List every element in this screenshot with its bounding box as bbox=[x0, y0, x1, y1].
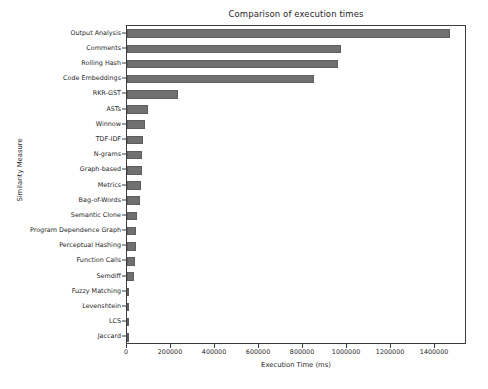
bar bbox=[127, 272, 134, 281]
y-tick-mark bbox=[122, 230, 126, 231]
bar bbox=[127, 60, 338, 69]
bar-row bbox=[127, 45, 465, 54]
y-tick-label: Rolling Hash bbox=[0, 60, 121, 66]
y-tick-label: Output Analysis bbox=[0, 29, 121, 35]
bar bbox=[127, 29, 450, 38]
y-tick-mark bbox=[122, 336, 126, 337]
bar bbox=[127, 75, 314, 84]
y-tick-label: Comments bbox=[0, 45, 121, 51]
y-tick-mark bbox=[122, 78, 126, 79]
bar-row bbox=[127, 105, 465, 114]
y-tick-mark bbox=[122, 154, 126, 155]
x-tick-label: 1200000 bbox=[376, 349, 404, 355]
y-tick-mark bbox=[122, 62, 126, 63]
bar bbox=[127, 318, 129, 327]
x-axis-title: Execution Time (ms) bbox=[126, 361, 466, 369]
bar bbox=[127, 257, 135, 266]
x-tick-label: 800000 bbox=[290, 349, 314, 355]
bars-layer bbox=[127, 26, 465, 343]
bar-row bbox=[127, 166, 465, 175]
bar bbox=[127, 90, 178, 99]
y-tick-label: Perceptual Hashing bbox=[0, 242, 121, 248]
y-tick-mark bbox=[122, 32, 126, 33]
x-tick-mark bbox=[434, 344, 435, 348]
bar bbox=[127, 303, 129, 312]
bar-row bbox=[127, 318, 465, 327]
x-tick-mark bbox=[258, 344, 259, 348]
y-tick-mark bbox=[122, 275, 126, 276]
bar bbox=[127, 227, 136, 236]
x-tick-mark bbox=[390, 344, 391, 348]
chart-title: Comparison of execution times bbox=[126, 9, 466, 19]
y-tick-label: Winnow bbox=[0, 121, 121, 127]
bar-row bbox=[127, 120, 465, 129]
bar-row bbox=[127, 242, 465, 251]
y-tick-label: LCS bbox=[0, 318, 121, 324]
bar-row bbox=[127, 181, 465, 190]
bar-row bbox=[127, 29, 465, 38]
bar-row bbox=[127, 90, 465, 99]
y-tick-mark bbox=[122, 260, 126, 261]
x-tick-mark bbox=[126, 344, 127, 348]
x-tick-mark bbox=[346, 344, 347, 348]
y-tick-label: Semdiff bbox=[0, 272, 121, 278]
bar bbox=[127, 333, 129, 342]
bar-row bbox=[127, 227, 465, 236]
bar bbox=[127, 181, 141, 190]
bar-row bbox=[127, 257, 465, 266]
bar-row bbox=[127, 136, 465, 145]
y-tick-label: Bag-of-Words bbox=[0, 196, 121, 202]
y-tick-mark bbox=[122, 321, 126, 322]
x-tick-label: 1400000 bbox=[420, 349, 448, 355]
x-tick-mark bbox=[302, 344, 303, 348]
bar bbox=[127, 136, 143, 145]
y-tick-mark bbox=[122, 123, 126, 124]
x-tick-label: 400000 bbox=[202, 349, 226, 355]
chart-figure: Comparison of execution times Similarity… bbox=[0, 0, 488, 389]
y-tick-mark bbox=[122, 184, 126, 185]
x-tick-label: 0 bbox=[124, 349, 128, 355]
bar-row bbox=[127, 288, 465, 297]
bar bbox=[127, 166, 142, 175]
bar-row bbox=[127, 212, 465, 221]
y-tick-label: Semantic Clone bbox=[0, 212, 121, 218]
bar-row bbox=[127, 60, 465, 69]
bar bbox=[127, 242, 136, 251]
y-tick-label: TDF-IDF bbox=[0, 136, 121, 142]
bar bbox=[127, 212, 137, 221]
y-tick-label: Fuzzy Matching bbox=[0, 288, 121, 294]
y-tick-label: Function Calls bbox=[0, 257, 121, 263]
bar bbox=[127, 196, 140, 205]
y-tick-mark bbox=[122, 169, 126, 170]
y-tick-mark bbox=[122, 214, 126, 215]
y-axis-labels: Output AnalysisCommentsRolling HashCode … bbox=[0, 25, 121, 344]
y-tick-label: RKR-GST bbox=[0, 90, 121, 96]
bar-row bbox=[127, 151, 465, 160]
x-axis-ticks: 0200000400000600000800000100000012000001… bbox=[126, 344, 466, 360]
y-tick-mark bbox=[122, 199, 126, 200]
bar bbox=[127, 288, 129, 297]
x-tick-label: 1000000 bbox=[332, 349, 360, 355]
x-tick-mark bbox=[214, 344, 215, 348]
bar bbox=[127, 45, 341, 54]
bar bbox=[127, 105, 148, 114]
y-tick-mark bbox=[122, 245, 126, 246]
y-tick-label: N-grams bbox=[0, 151, 121, 157]
x-tick-label: 200000 bbox=[158, 349, 182, 355]
x-tick-label: 600000 bbox=[246, 349, 270, 355]
x-tick-mark bbox=[170, 344, 171, 348]
y-tick-mark bbox=[122, 93, 126, 94]
y-tick-label: Metrics bbox=[0, 181, 121, 187]
y-tick-label: Jaccard bbox=[0, 333, 121, 339]
bar-row bbox=[127, 303, 465, 312]
y-tick-label: Program Dependence Graph bbox=[0, 227, 121, 233]
bar bbox=[127, 151, 142, 160]
y-tick-mark bbox=[122, 306, 126, 307]
bar-row bbox=[127, 272, 465, 281]
y-tick-mark bbox=[122, 108, 126, 109]
y-tick-label: Code Embeddings bbox=[0, 75, 121, 81]
y-tick-mark bbox=[122, 138, 126, 139]
y-tick-label: Levenshtein bbox=[0, 303, 121, 309]
bar-row bbox=[127, 75, 465, 84]
bar bbox=[127, 120, 145, 129]
